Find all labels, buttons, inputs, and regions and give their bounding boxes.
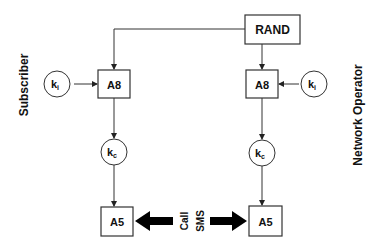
a5-right-box: A5 — [249, 206, 282, 236]
channel-label-sms: SMS — [195, 210, 206, 232]
rand-to-left-a8-line — [114, 29, 245, 69]
a8-right-box: A8 — [246, 70, 278, 98]
side-label-network-operator: Network Operator — [351, 64, 365, 166]
kc-left-circle: kc — [101, 139, 127, 165]
kc-right-circle: kc — [249, 140, 275, 166]
ki-right-circle: ki — [301, 71, 327, 97]
channel-label-call: Call — [179, 212, 190, 231]
a5-left-label: A5 — [110, 216, 124, 228]
a8-left-label: A8 — [107, 79, 121, 91]
big-arrow-left — [135, 211, 173, 231]
a8-right-label: A8 — [255, 79, 269, 91]
ki-left-circle: ki — [44, 71, 70, 97]
rand-label: RAND — [255, 23, 290, 37]
rand-box: RAND — [245, 15, 300, 44]
a5-right-label: A5 — [258, 216, 272, 228]
gsm-auth-diagram: Subscriber Network Operator RAND A8 A8 k… — [0, 0, 380, 251]
a8-left-box: A8 — [98, 70, 130, 98]
side-label-subscriber: Subscriber — [17, 53, 31, 116]
a5-left-box: A5 — [101, 207, 133, 236]
big-arrow-right — [210, 211, 247, 231]
